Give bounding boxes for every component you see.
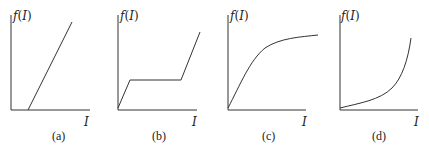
panel-b: f(I) I (b) — [118, 9, 200, 143]
caption: (b) — [152, 129, 166, 143]
y-axis-label: f(I) — [119, 9, 139, 23]
caption: (c) — [262, 129, 275, 143]
y-axis-label: f(I) — [229, 9, 249, 23]
curve-piecewise — [118, 32, 200, 108]
x-axis-label: I — [413, 115, 419, 129]
x-axis-label: I — [191, 115, 197, 129]
panel-a: f(I) I (a) — [11, 9, 90, 143]
y-axis-label: f(I) — [12, 9, 32, 23]
curve-linear — [28, 22, 72, 110]
panel-c: f(I) I (c) — [228, 9, 318, 143]
caption: (d) — [372, 129, 386, 143]
curve-saturating — [228, 35, 318, 108]
panel-d: f(I) I (d) — [340, 9, 419, 143]
y-axis-label: f(I) — [340, 9, 360, 23]
x-axis-label: I — [83, 115, 89, 129]
curve-convex — [340, 38, 411, 108]
x-axis-label: I — [301, 115, 307, 129]
figure: f(I) I (a) f(I) I (b) f(I) I (c) f(I) I … — [0, 0, 429, 148]
caption: (a) — [52, 129, 65, 143]
